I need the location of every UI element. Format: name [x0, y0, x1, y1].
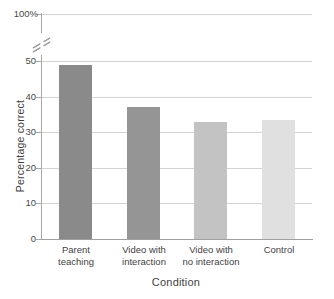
x-category-label: Video withinteraction — [110, 244, 178, 267]
x-category-label-line: Control — [245, 244, 313, 256]
y-tick-label-text: 30 — [2, 127, 36, 137]
y-tick-label-text: 50 — [2, 56, 36, 66]
x-category-label-line: Video with — [110, 244, 178, 256]
x-category-label-line: no interaction — [177, 256, 245, 268]
y-tick-label-top: 100% — [0, 9, 38, 19]
y-tick-label: 40 — [0, 92, 36, 102]
x-category-label: Parentteaching — [42, 244, 110, 267]
y-tick-label: 0 — [0, 234, 36, 244]
bar — [262, 120, 295, 239]
bar — [59, 65, 92, 239]
x-category-label-line: teaching — [42, 256, 110, 268]
bar-chart: Percentage correct 01020304050100% Paren… — [0, 0, 334, 299]
y-tick-label-top-text: 100% — [2, 9, 38, 19]
y-tick-label: 50 — [0, 56, 36, 66]
x-category-label: Video withno interaction — [177, 244, 245, 267]
y-tick-label-text: 40 — [2, 92, 36, 102]
y-tick-label: 10 — [0, 198, 36, 208]
x-category-label-line: Parent — [42, 244, 110, 256]
x-category-label-line: interaction — [110, 256, 178, 268]
x-category-label: Control — [245, 244, 313, 256]
bar — [194, 122, 227, 239]
plot-area — [42, 14, 312, 239]
bar — [127, 107, 160, 239]
x-axis-line — [41, 239, 313, 240]
y-tick-label-text: 20 — [2, 163, 36, 173]
y-tick-label-text: 0 — [2, 234, 36, 244]
y-tick-label-text: 10 — [2, 198, 36, 208]
y-tick-label: 20 — [0, 163, 36, 173]
y-tick-label: 30 — [0, 127, 36, 137]
x-axis-title: Condition — [40, 276, 312, 288]
x-category-label-line: Video with — [177, 244, 245, 256]
